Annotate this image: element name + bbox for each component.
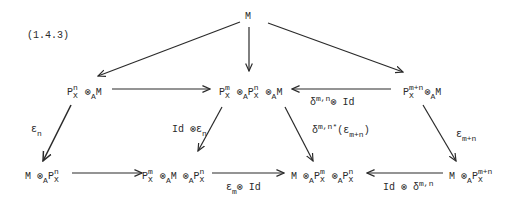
label-id-eps-n: Id ⊗εn bbox=[172, 125, 207, 135]
node-bot-4: M ⊗APm+nX bbox=[449, 168, 493, 184]
node-mid-right: Pm+nX⊗AM bbox=[403, 84, 441, 100]
label-eps-mn: εm+n bbox=[456, 130, 476, 140]
label-eps-m-id: εm⊗ Id bbox=[226, 183, 261, 193]
node-bot-2: PmX ⊗AM ⊗APnX bbox=[142, 168, 205, 184]
arrow-delta-star bbox=[285, 107, 313, 161]
commutative-diagram: (1.4.3) M PnX ⊗AM PmX ⊗APnX ⊗AM Pm+nX⊗AM… bbox=[0, 0, 525, 202]
arrows-layer bbox=[0, 0, 525, 202]
arrow-top-to-midright bbox=[268, 23, 403, 72]
equation-number: (1.4.3) bbox=[27, 31, 69, 41]
label-delta-star: δm,n*(εm+n) bbox=[312, 126, 370, 136]
arrow-eps-n bbox=[43, 105, 71, 161]
arrow-eps-mn bbox=[423, 105, 456, 161]
node-mid-left: PnX ⊗AM bbox=[67, 84, 102, 100]
node-top-m: M bbox=[245, 12, 251, 22]
node-bot-3: M ⊗APmX ⊗APnX bbox=[291, 168, 354, 184]
node-bot-1: M ⊗APnX bbox=[25, 168, 60, 184]
node-mid-center: PmX ⊗APnX ⊗AM bbox=[219, 84, 282, 100]
arrow-top-to-midleft bbox=[98, 22, 240, 76]
label-id-delta: Id ⊗ δm,n bbox=[383, 183, 433, 193]
label-delta-id: δm,n⊗ Id bbox=[310, 98, 354, 108]
label-eps-n: εn bbox=[31, 125, 42, 135]
